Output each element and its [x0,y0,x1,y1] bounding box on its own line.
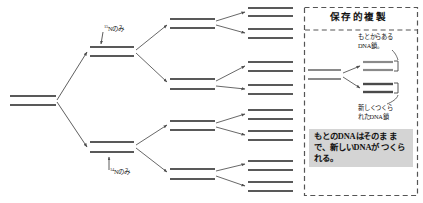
duplex-gen2-4 [170,169,215,179]
duplex-gen3-2 [248,29,293,38]
branch-arrow-gen0-to-gen1-bottom [57,102,87,147]
branch-arrow-gen2-1-to-gen3-1 [216,12,245,21]
panel-daughter-duplex-2 [363,84,393,92]
panel-parent-duplex [308,70,341,79]
panel-summary-note: もとのDNAはそのま まで、新しいDNAが つくられる。 [309,129,413,167]
duplex-gen2-3 [170,121,215,130]
isotope-pointer-heavy [101,32,103,44]
isotope-label-light-text: Nのみ [114,168,130,175]
panel-arrow-to-daughter-2 [343,77,360,88]
duplex-gen3-3 [248,62,293,71]
duplex-gen3-5 [248,110,293,119]
duplex-gen1-2 [90,142,134,152]
duplex-gen3-7 [248,161,293,170]
branch-arrow-gen2-4-to-gen3-7 [216,164,245,171]
duplex-gen0-1 [10,96,56,105]
annotation-new-strand: 新しくつくら れたDNA鎖 [358,104,393,121]
duplex-gen2-2 [170,79,215,89]
bracket-new-strand [394,83,398,93]
branch-arrow-gen2-2-to-gen3-4 [216,86,245,89]
duplex-gen3-4 [248,85,293,94]
isotope-label-heavy-text: Nのみ [108,25,124,32]
diagram-canvas [0,0,423,203]
bracket-old-strand [394,61,398,71]
annotation-old-strand: もとからある DNA鎖。 [358,33,393,50]
branch-arrow-gen2-3-to-gen3-6 [216,127,245,135]
panel-arrow-to-daughter-1 [343,66,360,73]
branch-arrow-gen1-1-to-gen2-2 [136,53,167,82]
figure-root: 15Nのみ 14Nのみ 保存的複製 もとからある DNA鎖。 新しくつくら れた… [0,0,423,203]
isotope-label-heavy: 15Nのみ [104,25,124,32]
duplex-gen3-8 [248,182,293,191]
branch-arrow-gen1-1-to-gen2-1 [136,25,167,50]
leader-line-old-strand [392,50,398,60]
branch-arrow-gen1-2-to-gen2-3 [136,125,167,145]
branch-arrow-gen2-1-to-gen3-2 [216,25,245,33]
branch-arrow-gen0-to-gen1-top [57,52,87,100]
branch-arrow-gen1-2-to-gen2-4 [136,148,167,172]
panel-title: 保存的複製 [330,12,387,23]
branch-arrow-gen2-4-to-gen3-8 [216,176,245,186]
isotope-label-light: 14Nのみ [110,168,130,175]
duplex-gen2-1 [170,19,215,28]
panel-daughter-duplex-1 [363,62,393,70]
branch-arrow-gen2-2-to-gen3-3 [216,66,245,81]
duplex-gen1-1 [90,47,134,56]
branch-arrow-gen2-3-to-gen3-5 [216,114,245,123]
leader-line-new-strand [387,95,398,104]
duplex-gen3-1 [248,8,293,16]
duplex-gen3-6 [248,131,293,140]
